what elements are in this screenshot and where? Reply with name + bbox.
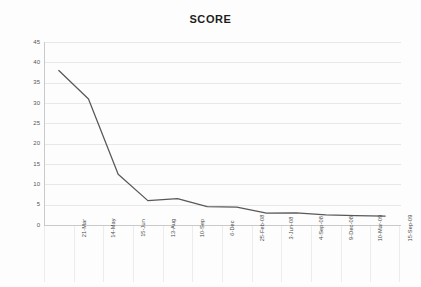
x-tick-separator-end bbox=[399, 226, 400, 284]
x-tick-3-jun-08: 3-Jun-08 bbox=[252, 226, 282, 284]
x-tick-label: 15-Jun bbox=[118, 219, 125, 237]
chart-title: SCORE bbox=[0, 13, 421, 25]
x-tick-label: 10-Sep bbox=[177, 219, 184, 238]
x-tick-separator bbox=[311, 226, 312, 282]
plot-area bbox=[44, 42, 400, 225]
x-tick-separator bbox=[341, 226, 342, 282]
x-tick-10-mar-09: 10-Mar-09 bbox=[341, 226, 371, 284]
x-tick-separator bbox=[399, 226, 400, 282]
x-tick-6-dec: 6-Dec bbox=[192, 226, 222, 284]
x-tick-separator bbox=[163, 226, 164, 282]
x-tick-separator bbox=[103, 226, 104, 282]
x-tick-label: 4-Sep-08 bbox=[296, 216, 303, 240]
y-tick-label-25: 25 bbox=[4, 120, 40, 127]
x-axis-tick-labels: 21-Mar14-May15-Jun13-Aug10-Sep6-Dec25-Fe… bbox=[44, 226, 401, 287]
y-axis-tick-labels: 051015202530354045 bbox=[0, 0, 40, 287]
y-tick-label-40: 40 bbox=[4, 59, 40, 66]
x-tick-label-text: 15-Sep-09 bbox=[407, 214, 414, 241]
x-tick-label: 15-Sep-09 bbox=[385, 214, 392, 241]
y-tick-label-15: 15 bbox=[4, 161, 40, 168]
x-tick-separator bbox=[370, 226, 371, 282]
x-tick-label: 21-Mar bbox=[59, 219, 66, 237]
x-tick-13-aug: 13-Aug bbox=[133, 226, 163, 284]
x-tick-4-sep-08: 4-Sep-08 bbox=[281, 226, 311, 284]
x-tick-separator bbox=[133, 226, 134, 282]
x-tick-label: 9-Dec-08 bbox=[326, 216, 333, 240]
x-tick-separator bbox=[44, 226, 45, 282]
x-tick-label: 6-Dec bbox=[207, 220, 214, 235]
x-tick-9-dec-08: 9-Dec-08 bbox=[311, 226, 341, 284]
x-tick-21-mar: 21-Mar bbox=[44, 226, 74, 284]
x-tick-label: 14-May bbox=[88, 218, 95, 237]
x-tick-15-jun: 15-Jun bbox=[103, 226, 133, 284]
x-tick-label: 25-Feb-08 bbox=[237, 215, 244, 242]
x-tick-25-feb-08: 25-Feb-08 bbox=[222, 226, 252, 284]
x-tick-separator bbox=[281, 226, 282, 282]
x-tick-14-may: 14-May bbox=[74, 226, 104, 284]
x-tick-label: 3-Jun-08 bbox=[266, 217, 273, 240]
x-tick-label: 13-Aug bbox=[148, 219, 155, 238]
y-tick-label-10: 10 bbox=[4, 181, 40, 188]
y-tick-label-20: 20 bbox=[4, 140, 40, 147]
x-tick-10-sep: 10-Sep bbox=[163, 226, 193, 284]
y-tick-label-45: 45 bbox=[4, 39, 40, 46]
y-tick-label-35: 35 bbox=[4, 79, 40, 86]
x-tick-separator bbox=[222, 226, 223, 282]
y-tick-label-30: 30 bbox=[4, 100, 40, 107]
x-tick-15-sep-09: 15-Sep-09 bbox=[370, 226, 400, 284]
x-tick-separator bbox=[252, 226, 253, 282]
x-tick-separator bbox=[192, 226, 193, 282]
y-tick-label-0: 0 bbox=[4, 222, 40, 229]
chart-container: SCORE 051015202530354045 21-Mar14-May15-… bbox=[0, 0, 421, 287]
x-tick-separator bbox=[74, 226, 75, 282]
x-tick-label: 10-Mar-09 bbox=[355, 215, 362, 242]
y-tick-label-5: 5 bbox=[4, 201, 40, 208]
